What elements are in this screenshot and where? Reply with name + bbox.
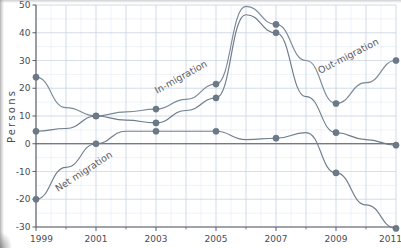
x-tick-label: 2011 <box>379 234 401 244</box>
y-tick-label: 50 <box>19 0 31 10</box>
data-point-marker <box>213 95 219 101</box>
y-axis-tick-labels: 50403020100-10-20-30 <box>16 0 31 232</box>
data-point-marker <box>213 128 219 134</box>
y-tick-label: 10 <box>19 111 31 121</box>
x-tick-label: 2009 <box>325 234 348 244</box>
x-tick-label: 2003 <box>145 234 168 244</box>
series-label-out-migration: Out-migration <box>316 36 380 76</box>
migration-line-chart: 50403020100-10-20-30 1999200120032005200… <box>0 0 401 248</box>
x-tick-label: 1999 <box>30 234 53 244</box>
grid-major <box>36 5 396 227</box>
data-point-marker <box>33 196 39 202</box>
x-axis-tick-labels: 1999200120032005200720092011 <box>30 234 401 244</box>
x-tick-label: 2007 <box>265 234 288 244</box>
data-point-marker <box>213 81 219 87</box>
data-point-marker <box>333 100 339 106</box>
data-point-marker <box>153 120 159 126</box>
y-tick-label: -20 <box>16 194 31 204</box>
x-tick-label: 2001 <box>85 234 108 244</box>
y-tick-label: 0 <box>25 139 31 149</box>
data-point-marker <box>393 225 399 231</box>
data-point-marker <box>393 57 399 63</box>
data-point-marker <box>273 135 279 141</box>
y-tick-label: 40 <box>19 28 31 38</box>
data-point-marker <box>93 113 99 119</box>
data-point-marker <box>333 170 339 176</box>
y-tick-label: -30 <box>16 222 31 232</box>
y-axis-title-text: Persons <box>6 89 17 143</box>
data-point-marker <box>93 141 99 147</box>
data-point-marker <box>273 30 279 36</box>
y-tick-label: -10 <box>16 167 31 177</box>
chart-canvas: 50403020100-10-20-30 1999200120032005200… <box>0 0 401 248</box>
series-inline-labels: Out-migrationIn-migrationNet migration <box>53 36 380 194</box>
y-axis-title: Persons <box>6 89 17 143</box>
series-label-in-migration: In-migration <box>153 58 209 96</box>
data-point-marker <box>393 142 399 148</box>
data-point-marker <box>333 130 339 136</box>
x-tick-label: 2005 <box>205 234 228 244</box>
data-point-marker <box>153 106 159 112</box>
data-point-marker <box>33 128 39 134</box>
data-point-marker <box>273 21 279 27</box>
data-point-marker <box>153 128 159 134</box>
y-tick-label: 30 <box>19 56 31 66</box>
data-point-marker <box>33 74 39 80</box>
y-tick-label: 20 <box>19 83 31 93</box>
